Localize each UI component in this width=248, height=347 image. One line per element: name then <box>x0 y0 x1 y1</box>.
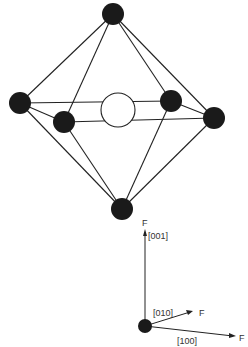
atom-right <box>203 107 225 129</box>
atom-front-left <box>53 111 75 133</box>
label-y-dir: [010] <box>153 308 173 318</box>
label-x-dir: [100] <box>177 336 197 346</box>
atom-top <box>102 3 124 25</box>
label-z-force: F <box>142 218 148 228</box>
label-x-force: F <box>239 333 245 343</box>
octahedron-diagram: F [001] [010] F [100] F <box>0 0 248 347</box>
atom-back-right <box>160 90 182 112</box>
axes <box>143 229 236 338</box>
axis-origin-atom <box>138 319 152 333</box>
center-atom <box>101 93 135 127</box>
atom-left <box>9 92 31 114</box>
label-z-dir: [001] <box>148 231 168 241</box>
label-y-force: F <box>199 308 205 318</box>
atom-bottom <box>111 198 133 220</box>
